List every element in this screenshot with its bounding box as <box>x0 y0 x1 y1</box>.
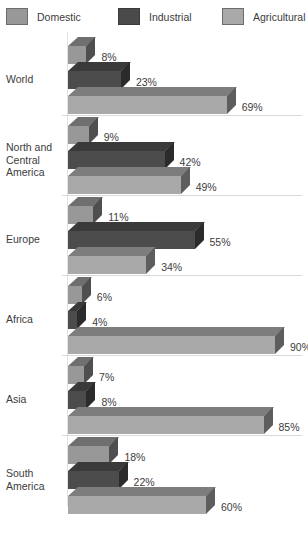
category-label-line: America <box>6 166 62 179</box>
legend-label: Domestic <box>37 11 81 23</box>
legend-swatch-agricultural-icon <box>222 8 244 25</box>
legend-item-industrial[interactable]: Industrial <box>118 8 192 25</box>
bar-value-label: 55% <box>210 236 231 248</box>
bar-group-africa: Africa6%4%90% <box>0 282 308 362</box>
bar-value-label: 90% <box>290 341 308 353</box>
bar-top-face <box>68 487 216 496</box>
bar-top-face <box>68 167 191 176</box>
category-label-line: America <box>6 480 62 493</box>
bar-front-face <box>68 311 77 329</box>
bar-group-south-america: SouthAmerica18%22%60% <box>0 442 308 522</box>
group-separator <box>62 355 302 356</box>
bar-front-face <box>68 256 146 274</box>
water-use-bar-chart: DomesticIndustrialAgricultural World8%23… <box>0 0 308 536</box>
category-label: Asia <box>6 393 62 406</box>
bar-industrial[interactable]: 4% <box>68 311 77 329</box>
category-label: Africa <box>6 313 62 326</box>
bar-agricultural[interactable]: 60% <box>68 496 206 514</box>
group-separator <box>62 115 302 116</box>
category-label: Europe <box>6 233 62 246</box>
bar-top-face <box>68 222 204 231</box>
bar-group-north-and-central-america: North andCentralAmerica9%42%49% <box>0 122 308 202</box>
bar-top-face <box>68 407 273 416</box>
category-label-line: World <box>6 73 62 86</box>
group-separator <box>62 435 302 436</box>
legend-swatch-industrial-icon <box>118 8 140 25</box>
group-separator <box>62 275 302 276</box>
bar-value-label: 49% <box>196 181 217 193</box>
bar-value-label: 34% <box>161 261 182 273</box>
bar-value-label: 69% <box>242 101 263 113</box>
bar-agricultural[interactable]: 69% <box>68 96 227 114</box>
bar-value-label: 60% <box>221 501 242 513</box>
bar-agricultural[interactable]: 49% <box>68 176 181 194</box>
bar-agricultural[interactable]: 90% <box>68 336 275 354</box>
bar-group-europe: Europe11%55%34% <box>0 202 308 282</box>
bar-agricultural[interactable]: 34% <box>68 256 146 274</box>
legend-item-domestic[interactable]: Domestic <box>6 8 81 25</box>
bar-front-face <box>68 496 206 514</box>
category-label-line: Europe <box>6 233 62 246</box>
chart-legend: DomesticIndustrialAgricultural <box>0 0 308 32</box>
bar-group-world: World8%23%69% <box>0 42 308 122</box>
bar-front-face <box>68 336 275 354</box>
bar-value-label: 85% <box>279 421 300 433</box>
bar-front-face <box>68 416 264 434</box>
legend-label: Industrial <box>149 11 192 23</box>
category-label: North andCentralAmerica <box>6 141 62 179</box>
bar-top-face <box>68 327 285 336</box>
category-label: World <box>6 73 62 86</box>
bar-value-label: 7% <box>99 371 114 383</box>
bar-top-face <box>68 247 156 256</box>
chart-plot-area: World8%23%69%North andCentralAmerica9%42… <box>0 32 308 536</box>
category-label: SouthAmerica <box>6 467 62 492</box>
bar-front-face <box>68 176 181 194</box>
bar-top-face <box>68 87 237 96</box>
group-separator <box>62 195 302 196</box>
bar-agricultural[interactable]: 85% <box>68 416 264 434</box>
bar-value-label: 6% <box>97 291 112 303</box>
category-label-line: North and <box>6 141 62 154</box>
category-label-line: Asia <box>6 393 62 406</box>
category-label-line: Africa <box>6 313 62 326</box>
legend-swatch-domestic-icon <box>6 8 28 25</box>
legend-item-agricultural[interactable]: Agricultural <box>222 8 306 25</box>
category-label-line: South <box>6 467 62 480</box>
bar-top-face <box>68 142 175 151</box>
legend-label: Agricultural <box>253 11 306 23</box>
bar-group-asia: Asia7%8%85% <box>0 362 308 442</box>
category-label-line: Central <box>6 154 62 167</box>
bar-front-face <box>68 96 227 114</box>
